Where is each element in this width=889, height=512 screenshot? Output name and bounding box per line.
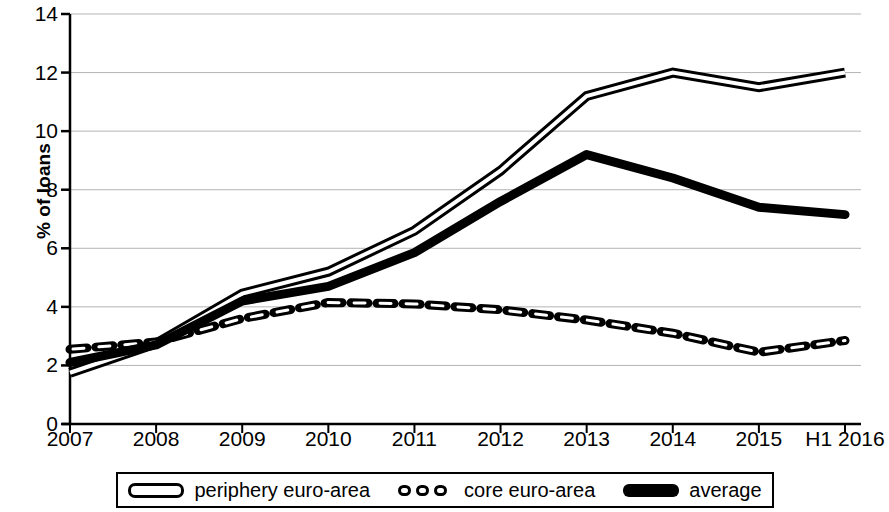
chart-figure: % of loans 02468101214 20072008200920102… bbox=[0, 0, 889, 512]
legend-label-periphery: periphery euro-area bbox=[194, 479, 370, 502]
dashed-line-swatch-icon bbox=[398, 483, 454, 497]
legend-item-average: average bbox=[609, 479, 775, 502]
x-tick-label: 2015 bbox=[736, 428, 783, 449]
x-tick-label: 2012 bbox=[477, 428, 524, 449]
legend-item-core-euro-area: core euro-area bbox=[384, 479, 609, 502]
series-average bbox=[70, 155, 845, 363]
x-tick-label: 2011 bbox=[392, 428, 437, 449]
legend-item-periphery-euro-area: periphery euro-area bbox=[114, 479, 384, 502]
axis-lines bbox=[62, 14, 861, 424]
x-axis-tick-labels: 200720082009201020112012201320142015H1 2… bbox=[0, 428, 889, 460]
plot-area bbox=[0, 0, 889, 440]
x-tick-label: 2014 bbox=[649, 428, 696, 449]
data-series-layer bbox=[70, 73, 845, 373]
x-tick-label: H1 2016 bbox=[805, 428, 884, 449]
x-tick-label: 2013 bbox=[563, 428, 610, 449]
x-tick-label: 2008 bbox=[133, 428, 180, 449]
legend-label-core: core euro-area bbox=[464, 479, 595, 502]
x-tick-label: 2007 bbox=[47, 428, 94, 449]
solid-line-swatch-icon bbox=[623, 484, 679, 497]
x-tick-label: 2009 bbox=[219, 428, 266, 449]
legend-label-average: average bbox=[689, 479, 761, 502]
x-tick-label: 2010 bbox=[305, 428, 352, 449]
chart-legend: periphery euro-area core euro-area avera… bbox=[116, 472, 774, 508]
double-line-swatch-icon bbox=[128, 483, 184, 498]
